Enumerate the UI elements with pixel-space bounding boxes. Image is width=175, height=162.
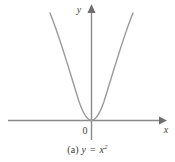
plot-area: y x 0	[0, 0, 175, 142]
x-axis-label: x	[163, 124, 169, 135]
caption-lhs: y	[82, 144, 87, 155]
caption-equals: =	[89, 144, 97, 155]
figure-parabola-y-equals-x-squared: y x 0 (a) y = x2	[0, 0, 175, 162]
caption-exponent: 2	[104, 143, 108, 151]
caption-tag: (a)	[67, 144, 79, 155]
origin-label: 0	[83, 125, 88, 136]
y-axis-label: y	[76, 4, 82, 15]
y-axis-arrow-icon	[88, 4, 96, 13]
figure-caption: (a) y = x2	[0, 143, 175, 155]
